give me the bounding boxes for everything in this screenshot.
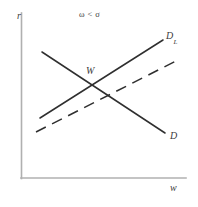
curve-labor-demand-DL xyxy=(40,40,163,118)
economics-line-diagram: r w ω < σ DL D W xyxy=(0,0,198,207)
curve-label-DL: DL xyxy=(166,31,177,44)
x-axis-label: w xyxy=(170,183,177,193)
curve-label-DL-main: D xyxy=(166,30,173,41)
y-axis-label: r xyxy=(17,11,21,21)
curve-label-DL-subscript: L xyxy=(174,38,178,46)
curve-demand-D xyxy=(42,52,165,133)
condition-annotation: ω < σ xyxy=(79,10,100,19)
curve-dashed-shifted xyxy=(36,61,176,132)
curve-label-D: D xyxy=(170,131,177,141)
equilibrium-point-label: W xyxy=(86,66,94,76)
